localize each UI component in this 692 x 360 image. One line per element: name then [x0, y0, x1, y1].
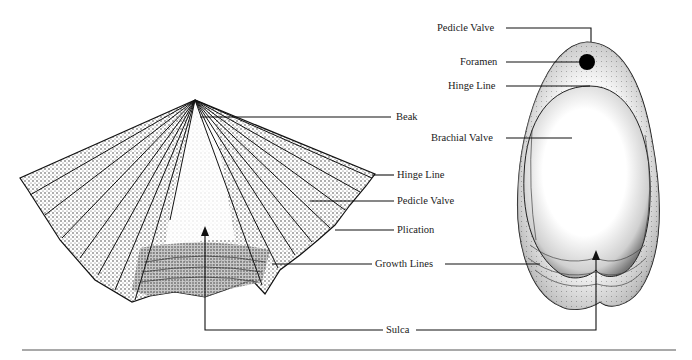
label-plication: Plication — [396, 224, 435, 236]
label-growth-lines: Growth Lines — [374, 258, 434, 270]
label-pedicle-valve-right: Pedicle Valve — [436, 22, 495, 34]
label-sulca: Sulca — [385, 324, 410, 336]
label-hinge-line-right: Hinge Line — [447, 80, 497, 92]
label-foramen: Foramen — [459, 56, 498, 68]
label-hinge-line-left: Hinge Line — [396, 169, 446, 181]
label-brachial-valve: Brachial Valve — [430, 132, 494, 144]
label-beak: Beak — [395, 111, 419, 123]
brachiopod-diagram: Beak Hinge Line Pedicle Valve Plication … — [0, 0, 692, 360]
label-pedicle-valve-left: Pedicle Valve — [396, 195, 455, 207]
right-specimen-shell — [518, 42, 660, 309]
foramen-hole — [579, 54, 595, 70]
